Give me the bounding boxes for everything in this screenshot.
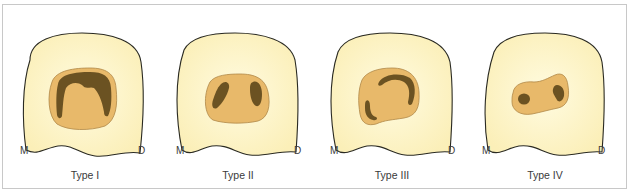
type-label: Type IV: [527, 169, 563, 181]
distal-label: D: [138, 145, 145, 156]
distal-label: D: [294, 145, 301, 156]
mesial-label: M: [176, 145, 184, 156]
panel-type-2: M D Type II: [176, 33, 301, 181]
type-label: Type III: [375, 169, 409, 181]
distal-label: D: [448, 145, 455, 156]
mesial-label: M: [482, 145, 490, 156]
panel-type-3: M D Type III: [330, 33, 455, 181]
type-label: Type I: [71, 169, 100, 181]
panel-type-4: M D Type IV: [482, 33, 605, 181]
mesial-label: M: [20, 145, 28, 156]
panel-type-1: M D Type I: [20, 33, 145, 181]
tooth-cross-section-diagram: M D Type I M D Type II M D Type III M D …: [0, 0, 636, 193]
mesial-label: M: [330, 145, 338, 156]
root-canal-mesial: [518, 94, 530, 105]
distal-label: D: [598, 145, 605, 156]
type-label: Type II: [222, 169, 254, 181]
